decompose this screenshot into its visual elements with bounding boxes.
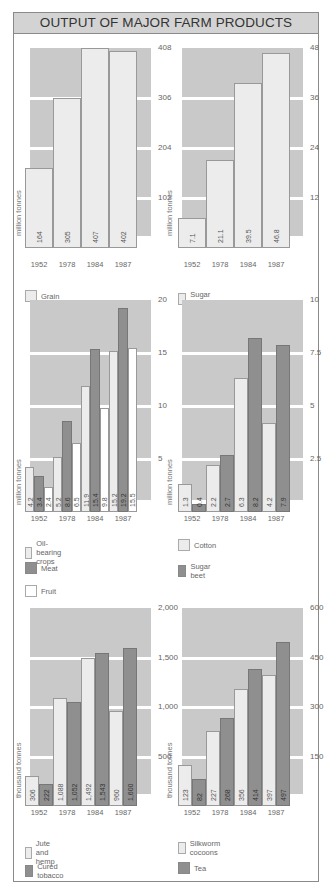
x-tick-label: 1987 [263, 260, 289, 269]
bar-value-label: 227 [210, 789, 217, 801]
bar-sugar-cane-1987: 46.8 [262, 53, 290, 248]
legend-label: Meat [41, 564, 58, 573]
bar-value-label: 8.2 [252, 497, 259, 507]
bar-sugar-beet-1978: 2.7 [220, 455, 234, 512]
bar-grain-1952: 164 [25, 168, 53, 248]
y-tick-label: 5 [158, 454, 162, 463]
bar-cotton-1978: 2.2 [206, 465, 220, 512]
gridline-extension [151, 97, 156, 100]
bar-cured-tobacco-1984: 1,543 [95, 653, 109, 806]
bar-value-label: 356 [238, 789, 245, 801]
x-tick-label: 1952 [179, 260, 205, 269]
bar-cotton-1952: 1.3 [178, 484, 192, 512]
y-tick-label: 36 [310, 93, 319, 102]
y-tick-label: 12 [310, 193, 319, 202]
legend-label: Sugar beet [190, 562, 214, 580]
y-tick-label: 48 [310, 43, 319, 52]
legend-item: Fruit [25, 585, 56, 597]
bar-value-label: 8.6 [63, 497, 70, 507]
gridline-extension [151, 657, 156, 660]
legend-label: Fruit [41, 587, 56, 596]
bar-silkworm-cocoons-1952: 123 [178, 765, 192, 806]
gridline-extension [151, 352, 156, 355]
gridline-extension [151, 197, 156, 200]
bar-sugar-beet-1984: 8.2 [248, 338, 262, 512]
bar-jute-and-hemp-1987: 960 [109, 711, 123, 806]
bar-meat-1978: 8.6 [62, 421, 71, 512]
bar-value-label: 414 [252, 789, 259, 801]
gridline-extension [151, 706, 156, 709]
y-tick-label: 5 [310, 401, 314, 410]
bar-value-label: 2.2 [210, 497, 217, 507]
bar-value-label: 15.4 [91, 493, 98, 507]
y-tick-label: 600 [310, 603, 323, 612]
x-tick-label: 1952 [26, 514, 52, 523]
gridline-extension [303, 147, 308, 150]
x-tick-label: 1978 [207, 808, 233, 817]
y-tick-label: 15 [158, 348, 167, 357]
bar-value-label: 164 [36, 231, 43, 243]
legend-swatch [178, 842, 186, 854]
bar-value-label: 11.9 [82, 494, 89, 507]
y-tick-label: 2.5 [310, 454, 321, 463]
bar-value-label: 7.9 [280, 497, 287, 507]
legend-swatch [178, 862, 190, 874]
bar-silkworm-cocoons-1978: 227 [206, 731, 220, 806]
x-tick-label: 1984 [235, 808, 261, 817]
bar-value-label: 15.5 [129, 493, 136, 507]
gridline-extension [303, 756, 308, 759]
bar-value-label: 1,600 [127, 783, 134, 801]
y-tick-label: 20 [158, 295, 167, 304]
x-tick-label: 1978 [54, 514, 80, 523]
bar-cotton-1987: 4.2 [262, 423, 276, 512]
legend-swatch [25, 865, 33, 877]
bar-value-label: 1,543 [99, 783, 106, 801]
gridline-extension [303, 706, 308, 709]
bar-value-label: 1,088 [57, 783, 64, 801]
x-tick-label: 1978 [207, 514, 233, 523]
y-axis-label: thousand tonnes [14, 743, 23, 798]
bar-fruit-1987: 15.5 [128, 348, 137, 512]
bar-tea-1984: 414 [248, 669, 262, 806]
y-tick-label: 450 [310, 653, 323, 662]
y-tick-label: 1,000 [158, 702, 178, 711]
bar-fruit-1978: 6.5 [72, 443, 81, 512]
bar-oil-bearing-crops-1952: 4.2 [25, 467, 34, 512]
legend-swatch [25, 562, 37, 574]
gridline-extension [151, 405, 156, 408]
legend-item: Cured tobacco [25, 862, 67, 880]
bar-value-label: 268 [224, 789, 231, 801]
bar-grain-1978: 305 [53, 98, 81, 248]
gridline-extension [151, 147, 156, 150]
bar-oil-bearing-crops-1978: 5.2 [53, 457, 62, 512]
x-tick-label: 1984 [235, 514, 261, 523]
bar-sugar-cane-1984: 39.5 [234, 83, 262, 248]
y-tick-label: 306 [158, 93, 171, 102]
bar-value-label: 402 [120, 231, 127, 243]
gridline-extension [151, 458, 156, 461]
x-tick-label: 1952 [26, 808, 52, 817]
bar-sugar-cane-1952: 7.1 [178, 218, 206, 248]
legend-item: Cotton [178, 539, 216, 551]
x-tick-label: 1987 [110, 514, 136, 523]
bar-value-label: 960 [113, 789, 120, 801]
bar-tea-1952: 82 [192, 779, 206, 806]
bar-sugar-beet-1987: 7.9 [276, 345, 290, 512]
y-axis-label: million tonnes [165, 190, 174, 236]
legend-item: Silkworm cocoons [178, 839, 224, 857]
y-tick-label: 7.5 [310, 348, 321, 357]
bar-value-label: 1,492 [85, 783, 92, 801]
bar-value-label: 6.3 [238, 497, 245, 507]
bar-value-label: 46.8 [273, 229, 280, 243]
gridline-extension [303, 97, 308, 100]
bar-value-label: 497 [280, 789, 287, 801]
bar-value-label: 39.5 [245, 229, 252, 243]
bar-value-label: 123 [182, 789, 189, 801]
bar-fruit-1984: 9.8 [100, 408, 109, 512]
bar-value-label: 2.4 [45, 497, 52, 507]
y-axis-label: million tonnes [14, 190, 23, 236]
bar-silkworm-cocoons-1984: 356 [234, 689, 248, 806]
bar-value-label: 0.4 [196, 497, 203, 507]
x-tick-label: 1978 [54, 808, 80, 817]
y-tick-label: 2,000 [158, 603, 178, 612]
